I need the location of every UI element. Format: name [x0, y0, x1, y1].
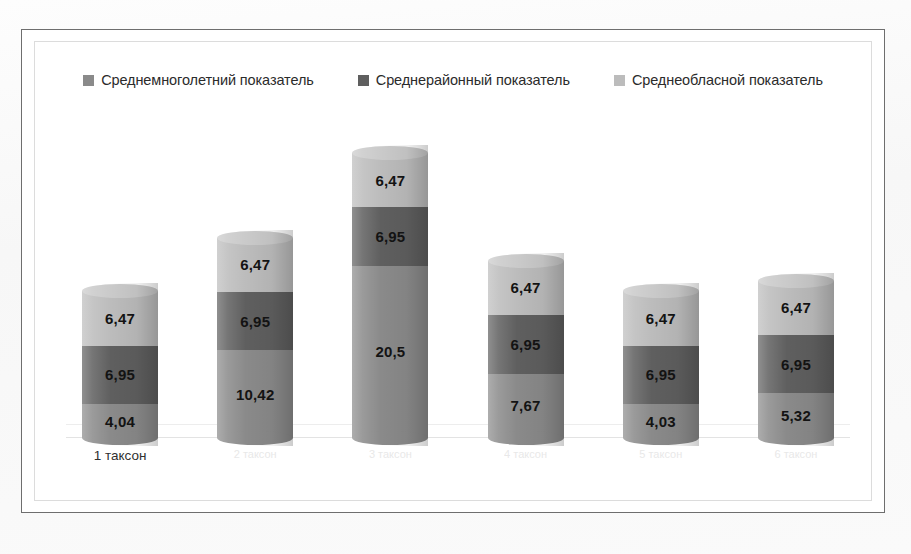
stacked-cylinder-bar[interactable]: 6,476,9520,5 — [352, 153, 428, 438]
legend-item[interactable]: Среднеобласной показатель — [614, 72, 823, 88]
bar-segment-value-label: 4,03 — [646, 413, 676, 430]
chart-legend: Среднемноголетний показательСреднерайонн… — [22, 72, 884, 88]
bar-column[interactable]: 6,476,954,04 — [76, 291, 164, 438]
legend-item[interactable]: Среднемноголетний показатель — [83, 72, 314, 88]
bar-column[interactable]: 6,476,955,32 — [752, 281, 840, 438]
legend-swatch-icon — [358, 75, 369, 86]
legend-swatch-icon — [83, 75, 94, 86]
bar-column[interactable]: 6,476,9510,42 — [211, 238, 299, 438]
bar-segment-value-label: 6,95 — [511, 336, 541, 353]
x-axis-tick-label: 4 таксон — [482, 448, 570, 470]
bar-segment-value-label: 6,95 — [375, 228, 405, 245]
x-axis-tick-label: 3 таксон — [346, 448, 434, 470]
bar-segment-value-label: 6,47 — [646, 310, 676, 327]
bar-segment-value-label: 6,95 — [105, 366, 135, 383]
bar-segment-value-label: 5,32 — [781, 407, 811, 424]
bar-segment-value-label: 4,04 — [105, 413, 135, 430]
x-axis-tick-labels: 1 таксон2 таксон3 таксон4 таксон5 таксон… — [62, 448, 854, 470]
bar-segment-value-label: 10,42 — [236, 386, 275, 403]
legend-item-label: Среднерайонный показатель — [376, 72, 570, 88]
bars-container: 6,476,954,046,476,9510,426,476,9520,56,4… — [62, 125, 854, 438]
bar-segment[interactable]: 6,95 — [217, 292, 293, 350]
x-axis-tick-label: 6 таксон — [752, 448, 840, 470]
stacked-cylinder-bar[interactable]: 6,476,954,03 — [623, 291, 699, 438]
stacked-cylinder-bar[interactable]: 6,476,9510,42 — [217, 238, 293, 438]
bar-segment[interactable]: 6,95 — [82, 346, 158, 404]
bar-segment[interactable]: 10,42 — [217, 350, 293, 438]
bar-segment-value-label: 6,47 — [375, 172, 405, 189]
bar-segment[interactable]: 5,32 — [758, 393, 834, 438]
bar-segment-value-label: 6,95 — [781, 356, 811, 373]
x-axis-tick-label: 5 таксон — [617, 448, 705, 470]
stacked-cylinder-bar[interactable]: 6,476,955,32 — [758, 281, 834, 438]
legend-item[interactable]: Среднерайонный показатель — [358, 72, 570, 88]
bar-column[interactable]: 6,476,957,67 — [482, 261, 570, 438]
plot-area: 6,476,954,046,476,9510,426,476,9520,56,4… — [62, 125, 854, 438]
bar-segment-value-label: 6,47 — [511, 279, 541, 296]
bar-segment[interactable]: 6,47 — [217, 238, 293, 292]
bar-segment-value-label: 6,95 — [646, 366, 676, 383]
stacked-cylinder-bar[interactable]: 6,476,957,67 — [488, 261, 564, 438]
bar-segment[interactable]: 6,47 — [758, 281, 834, 335]
bar-segment[interactable]: 7,67 — [488, 374, 564, 438]
legend-item-label: Среднемноголетний показатель — [101, 72, 314, 88]
x-axis-tick-label: 1 таксон — [76, 448, 164, 470]
bar-column[interactable]: 6,476,9520,5 — [346, 153, 434, 438]
bar-segment[interactable]: 6,95 — [758, 335, 834, 393]
bar-column[interactable]: 6,476,954,03 — [617, 291, 705, 438]
bar-segment[interactable]: 6,95 — [488, 315, 564, 373]
bar-segment[interactable]: 6,47 — [82, 291, 158, 345]
bar-segment[interactable]: 6,95 — [623, 346, 699, 404]
bar-segment-value-label: 6,47 — [105, 310, 135, 327]
bar-segment[interactable]: 6,95 — [352, 207, 428, 265]
bar-segment-value-label: 6,95 — [240, 313, 270, 330]
chart-frame: Среднемноголетний показательСреднерайонн… — [21, 29, 885, 513]
bar-segment-value-label: 20,5 — [375, 343, 405, 360]
stacked-cylinder-bar[interactable]: 6,476,954,04 — [82, 291, 158, 438]
bar-segment-value-label: 7,67 — [511, 397, 541, 414]
bar-segment-value-label: 6,47 — [240, 256, 270, 273]
x-axis-tick-label: 2 таксон — [211, 448, 299, 470]
bar-segment[interactable]: 6,47 — [623, 291, 699, 345]
bar-segment[interactable]: 4,04 — [82, 404, 158, 438]
bar-segment[interactable]: 4,03 — [623, 404, 699, 438]
legend-swatch-icon — [614, 75, 625, 86]
legend-item-label: Среднеобласной показатель — [632, 72, 823, 88]
bar-segment[interactable]: 6,47 — [488, 261, 564, 315]
bar-segment-value-label: 6,47 — [781, 299, 811, 316]
bar-segment[interactable]: 20,5 — [352, 266, 428, 438]
bar-segment[interactable]: 6,47 — [352, 153, 428, 207]
